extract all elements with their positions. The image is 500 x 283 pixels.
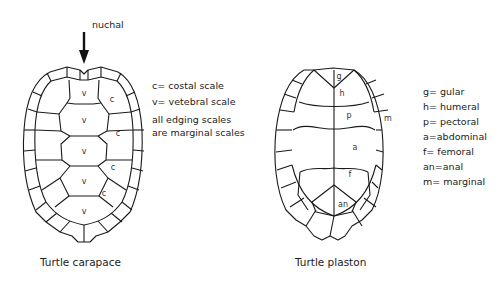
- vertebral-label-1: v: [82, 89, 87, 98]
- femoral-label: f: [349, 170, 352, 179]
- humeral-label: h: [339, 89, 344, 98]
- plastron-legend-marginal: m= marginal: [423, 175, 485, 188]
- carapace-legend-vertebral: v= vetebral scale: [152, 95, 236, 108]
- plastron-legend-humeral: h= humeral: [423, 100, 480, 113]
- plastron-drawing: g h p a f an m: [275, 68, 392, 240]
- nuchal-label: nuchal: [92, 18, 124, 31]
- gular-label: g: [336, 72, 341, 81]
- plastron-caption: Turtle plaston: [295, 256, 366, 268]
- vertebral-label-5: v: [82, 207, 87, 216]
- marginal-label: m: [384, 114, 392, 123]
- costal-label-2: c: [116, 129, 120, 138]
- nuchal-arrow: [79, 32, 89, 64]
- vertebral-label-2: v: [82, 116, 87, 125]
- vertebral-label-3: v: [82, 147, 87, 156]
- carapace-note-line-1: all edging scales: [152, 113, 231, 126]
- vertebral-label-4: v: [82, 177, 87, 186]
- carapace-note-line-2: are marginal scales: [152, 126, 245, 139]
- vertebral-scutes: [35, 80, 133, 207]
- plastron-legend-pectoral: p= pectoral: [423, 115, 479, 128]
- carapace-legend-costal: c= costal scale: [152, 79, 224, 92]
- plastron-legend-abdominal: a=abdominal: [423, 130, 487, 143]
- carapace-caption: Turtle carapace: [40, 256, 121, 268]
- plastron-legend-gular: g= gular: [423, 85, 464, 98]
- carapace-drawing: v v v v v c c c c: [24, 32, 145, 242]
- plastron-legend-femoral: f= femoral: [423, 145, 474, 158]
- costal-label-4: c: [102, 189, 106, 198]
- costal-label-3: c: [111, 163, 115, 172]
- costal-label-1: c: [110, 95, 114, 104]
- abdominal-label: a: [353, 143, 358, 152]
- pectoral-label: p: [346, 111, 351, 120]
- anal-label: an: [338, 200, 348, 209]
- plastron-legend-anal: an=anal: [423, 160, 463, 173]
